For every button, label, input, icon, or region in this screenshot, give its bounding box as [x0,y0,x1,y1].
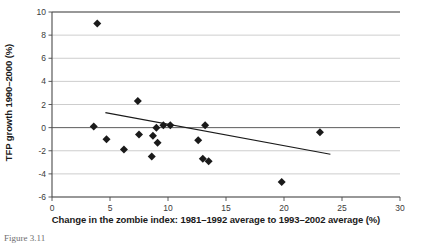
figure-caption: Figure 3.11 [4,233,45,243]
x-axis-title: Change in the zombie index: 1981–1992 av… [18,214,414,225]
y-axis-tick-label: 4 [41,76,46,86]
x-axis-tick-label: 25 [337,203,347,213]
y-axis-tick-label: 8 [41,30,46,40]
x-axis-tick-label: 30 [395,203,405,213]
x-axis-tick-label: 5 [108,203,113,213]
y-axis-tick-label: -2 [38,146,46,156]
y-axis-tick-label: 10 [37,7,47,17]
scatter-plot: -6-4-20246810051015202530 [18,4,408,222]
y-axis-title-label: TFP growth 1990–2000 (%) [4,44,15,161]
y-axis-tick-label: 6 [41,53,46,63]
y-axis-tick-label: 2 [41,100,46,110]
x-axis-tick-label: 20 [279,203,289,213]
y-axis-tick-label: -4 [38,169,46,179]
y-axis-tick-label: 0 [41,123,46,133]
x-axis-tick-label: 15 [221,203,231,213]
x-axis-tick-label: 10 [163,203,173,213]
x-axis-tick-label: 0 [50,203,55,213]
y-axis-title: TFP growth 1990–2000 (%) [0,0,18,205]
x-axis-title-label: Change in the zombie index: 1981–1992 av… [52,214,380,225]
y-axis-tick-label: -6 [38,192,46,202]
figure-root: TFP growth 1990–2000 (%) -6-4-2024681005… [0,0,422,248]
